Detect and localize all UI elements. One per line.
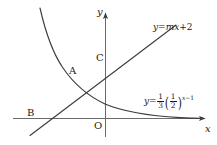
exp-eq-coef-denominator: 3 (157, 101, 164, 111)
line-eq-m: m (166, 22, 175, 32)
point-label-B: B (27, 108, 34, 118)
exp-eq-base-numerator: 1 (170, 93, 177, 101)
exp-eq-exponent: x−1 (182, 94, 194, 101)
line-eq-equals: = (158, 22, 166, 32)
point-label-C: C (96, 53, 104, 63)
exp-eq-base-denominator: 2 (170, 101, 177, 111)
exp-eq-exponent-const: 1 (190, 94, 194, 101)
exp-eq-coef-numerator: 1 (157, 93, 164, 101)
line-equation-label: y=mx+2 (153, 23, 193, 32)
math-figure: A B C O x y y=mx+2 y=13(12)x−1 (0, 0, 217, 145)
y-axis-label: y (97, 7, 103, 17)
line-eq-plus: + (179, 22, 187, 32)
exp-eq-coefficient-fraction: 13 (157, 93, 164, 111)
exponential-equation-label: y=13(12)x−1 (144, 93, 194, 111)
x-axis-label: x (205, 124, 211, 134)
left-paren-icon: ( (165, 98, 169, 109)
exp-eq-base-fraction: 12 (170, 93, 177, 111)
right-paren-icon: ) (177, 98, 181, 109)
point-label-A: A (69, 66, 76, 76)
line-eq-constant: 2 (187, 22, 193, 32)
exp-eq-equals: = (149, 96, 157, 106)
origin-label: O (94, 121, 102, 131)
